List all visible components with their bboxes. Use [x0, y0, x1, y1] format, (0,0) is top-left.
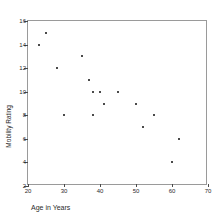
x-tick-mark [100, 184, 101, 187]
y-tick-label: 16 [19, 18, 26, 24]
y-tick-label: 6 [23, 136, 26, 142]
x-tick-label: 40 [97, 188, 104, 194]
data-point [135, 103, 137, 105]
data-point [92, 114, 94, 116]
data-point [153, 114, 155, 116]
x-tick-mark [208, 184, 209, 187]
x-tick-mark [136, 184, 137, 187]
x-tick-mark [28, 184, 29, 187]
data-point [63, 114, 65, 116]
x-tick-label: 20 [25, 188, 32, 194]
plot-frame: 246810121416 203040506070 [27, 20, 207, 185]
y-axis-title: Mobility Rating [6, 105, 13, 148]
y-tick-label: 12 [19, 65, 26, 71]
y-tick-label: 10 [19, 89, 26, 95]
y-tick-label: 14 [19, 42, 26, 48]
data-point [103, 103, 105, 105]
data-point [81, 55, 83, 57]
y-tick-label: 8 [23, 112, 26, 118]
plot-area [28, 21, 206, 184]
x-tick-mark [64, 184, 65, 187]
x-tick-label: 70 [205, 188, 212, 194]
x-tick-label: 50 [133, 188, 140, 194]
x-tick-label: 60 [169, 188, 176, 194]
x-tick-label: 30 [61, 188, 68, 194]
data-point [117, 91, 119, 93]
x-axis-title: Age in Years [31, 204, 70, 211]
data-point [56, 67, 58, 69]
x-tick-mark [172, 184, 173, 187]
scatter-plot-figure: 246810121416 203040506070 Mobility Ratin… [0, 0, 221, 223]
data-point [171, 161, 173, 163]
data-point [88, 79, 90, 81]
data-point [142, 126, 144, 128]
data-point [38, 44, 40, 46]
data-point [45, 32, 47, 34]
data-point [178, 138, 180, 140]
data-point [92, 91, 94, 93]
data-point [99, 91, 101, 93]
y-tick-label: 4 [23, 159, 26, 165]
